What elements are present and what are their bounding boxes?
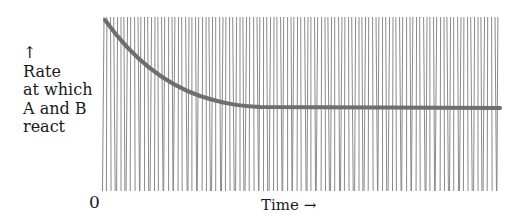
origin-label: 0 xyxy=(89,192,100,212)
chart-plot xyxy=(0,0,526,219)
x-axis-label: Time → xyxy=(261,196,316,214)
vertical-hatch-background xyxy=(103,17,498,191)
